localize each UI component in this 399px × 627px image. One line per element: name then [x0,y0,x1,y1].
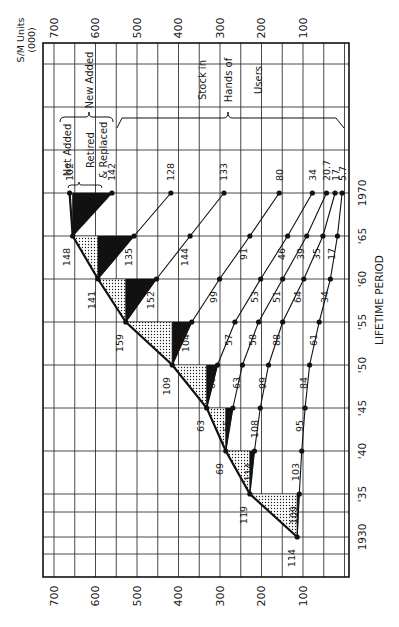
data-point [328,276,333,281]
data-point [310,190,315,195]
data-point [215,362,220,367]
data-point [168,190,173,195]
data-label: 53 [249,291,260,303]
data-label: 57 [223,334,234,346]
new-added-label: New Added [84,52,95,109]
data-label: 80 [274,169,285,181]
y-axis-title-units: (000) [26,27,37,53]
data-label: 152 [145,291,156,309]
data-label: 144 [179,248,190,266]
data-label: 63 [195,420,206,432]
stock-brace [117,112,344,128]
x-tick-label: '50 [356,357,368,373]
data-label: 135 [123,248,134,266]
data-label: 69 [214,463,225,475]
data-label: 103 [290,463,301,481]
data-label: 133 [218,163,229,181]
data-label: 63 [231,377,242,389]
data-point [256,319,261,324]
data-label: 95 [294,420,305,432]
x-tick-label: '40 [356,443,368,459]
data-point [280,319,285,324]
x-tick-label: 1970 [356,180,368,207]
data-point [301,276,306,281]
data-label: 34 [307,169,318,181]
y-tick-label-bottom: 400 [172,586,185,607]
x-tick-label: '45 [356,400,368,416]
data-label: 128 [165,163,176,181]
data-label: 109 [161,377,172,395]
stock-label-1: Stock in [197,60,208,100]
y-tick-label-bottom: 300 [214,586,227,607]
annotations: New AddedNet AddedRetired& ReplacedStock… [60,52,344,188]
y-axis-title: S/M Units [15,18,26,63]
data-point [232,319,237,324]
y-tick-label-top: 500 [131,18,144,39]
data-label: 108 [249,420,260,438]
y-tick-label-bottom: 600 [89,586,102,607]
data-label: 39 [295,248,306,260]
data-point [297,491,302,496]
y-tick-label-top: 100 [297,18,310,39]
y-tick-label-bottom: 100 [297,586,310,607]
data-point [302,405,307,410]
x-tick-label: '65 [356,228,368,244]
data-label: 99 [208,291,219,303]
data-point [340,190,345,195]
y-tick-label-top: 200 [255,18,268,39]
retired-label: Retired [85,132,96,168]
stock-label-3: Users [253,66,264,94]
data-point [109,190,114,195]
stock-of-units-chart: 11410910395846134175.7119114108998864351… [0,0,399,627]
data-label: 17 [326,248,337,260]
data-point [217,276,222,281]
data-label: 104 [180,334,191,352]
data-label: 109 [288,506,299,524]
data-point [277,190,282,195]
y-tick-label-bottom: 700 [48,586,61,607]
data-label: 64 [292,291,303,303]
data-label: 119 [238,506,249,524]
data-label: 60 [206,377,217,389]
x-tick-label: '55 [356,314,368,330]
x-axis-title: LIFETIME PERIOD [373,255,385,345]
data-point [280,276,285,281]
data-point [320,233,325,238]
new-added-brace [60,112,113,122]
data-point [230,405,235,410]
data-label: 51 [271,291,282,303]
net-added-label: Net Added [62,124,73,177]
data-point [131,233,136,238]
x-tick-label: 1930 [356,524,368,551]
stock-label-2: Hands of [223,57,234,102]
data-label: 84 [298,377,309,389]
replaced-label: & Replaced [98,122,109,179]
data-point [154,276,159,281]
data-point [188,233,193,238]
data-label: 61 [308,334,319,346]
data-point [335,233,340,238]
data-label: 34 [319,291,330,303]
data-point [258,405,263,410]
data-point [285,233,290,238]
data-label: 20.7 [321,160,332,181]
data-label: 141 [86,291,97,309]
data-point [332,190,337,195]
data-point [258,276,263,281]
retired-brace [68,182,102,188]
data-label: 46 [276,248,287,260]
data-label: 35 [311,248,322,260]
axes: 1001002002003003004004005005006006007007… [15,18,386,607]
data-point [317,319,322,324]
y-tick-label-top: 400 [172,18,185,39]
data-point [247,233,252,238]
data-point [240,362,245,367]
x-tick-label: '35 [356,486,368,502]
y-tick-label-top: 300 [214,18,227,39]
data-point [252,448,257,453]
data-label: 114 [243,463,254,481]
x-tick-label: '60 [356,271,368,287]
data-point [299,448,304,453]
data-label: 148 [61,248,72,266]
data-label: 99 [257,377,268,389]
